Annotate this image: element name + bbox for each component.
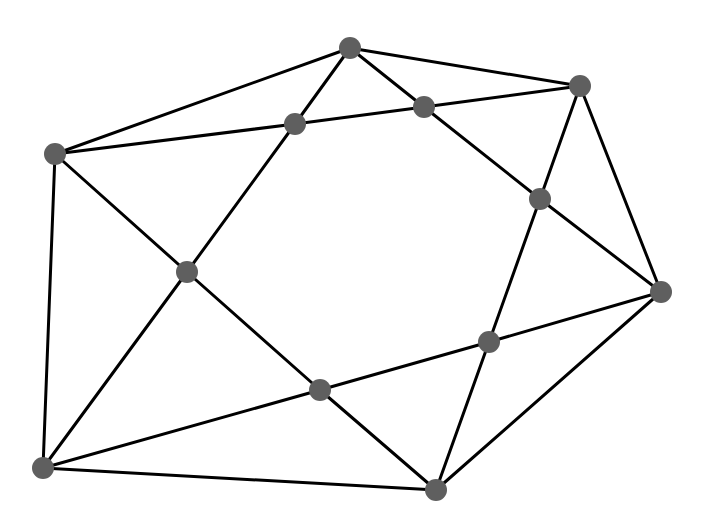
edge-H-I bbox=[489, 292, 661, 342]
edge-K-L bbox=[43, 468, 436, 490]
edge-A-C bbox=[55, 48, 350, 154]
edge-D-F bbox=[424, 107, 540, 199]
node-B bbox=[284, 113, 306, 135]
edge-D-E bbox=[424, 86, 580, 107]
node-F bbox=[529, 188, 551, 210]
edge-A-K bbox=[43, 154, 55, 468]
edge-A-B bbox=[55, 124, 295, 154]
edge-I-J bbox=[320, 342, 489, 390]
edge-E-F bbox=[540, 86, 580, 199]
edge-J-K bbox=[43, 390, 320, 468]
edge-B-G bbox=[187, 124, 295, 272]
node-G bbox=[176, 261, 198, 283]
edge-J-L bbox=[320, 390, 436, 490]
node-I bbox=[478, 331, 500, 353]
node-A bbox=[44, 143, 66, 165]
edge-A-G bbox=[55, 154, 187, 272]
node-C bbox=[339, 37, 361, 59]
edge-G-K bbox=[43, 272, 187, 468]
edge-B-D bbox=[295, 107, 424, 124]
node-layer bbox=[32, 37, 672, 501]
edge-F-I bbox=[489, 199, 540, 342]
edge-C-D bbox=[350, 48, 424, 107]
node-L bbox=[425, 479, 447, 501]
edge-G-J bbox=[187, 272, 320, 390]
node-D bbox=[413, 96, 435, 118]
edge-C-E bbox=[350, 48, 580, 86]
edge-H-L bbox=[436, 292, 661, 490]
graph-diagram bbox=[0, 0, 714, 522]
node-J bbox=[309, 379, 331, 401]
edge-layer bbox=[43, 48, 661, 490]
node-H bbox=[650, 281, 672, 303]
node-K bbox=[32, 457, 54, 479]
node-E bbox=[569, 75, 591, 97]
